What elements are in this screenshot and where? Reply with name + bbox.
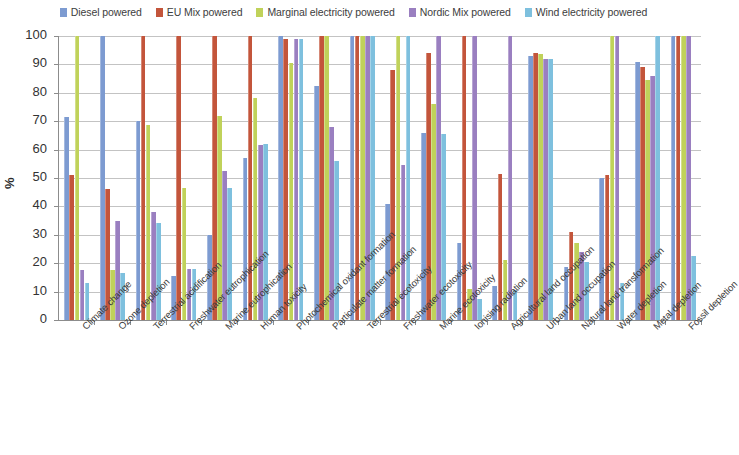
bar xyxy=(360,36,365,320)
bar xyxy=(227,188,232,320)
bar xyxy=(676,36,681,320)
legend-label: Diesel powered xyxy=(71,6,142,18)
legend-swatch-icon xyxy=(60,8,67,17)
bar xyxy=(472,36,477,320)
bar xyxy=(314,86,319,320)
bar xyxy=(299,39,304,320)
y-tick-label: 20 xyxy=(3,254,47,269)
bar xyxy=(681,36,686,320)
y-tick-label: 10 xyxy=(3,283,47,298)
bar xyxy=(390,70,395,320)
bar xyxy=(136,121,141,320)
bar xyxy=(115,221,120,320)
y-tick-label: 100 xyxy=(3,27,47,42)
bar xyxy=(243,158,248,320)
legend-swatch-icon xyxy=(525,8,532,17)
legend-item: EU Mix powered xyxy=(156,6,243,18)
y-tick-label: 40 xyxy=(3,197,47,212)
chart-legend: Diesel poweredEU Mix poweredMarginal ele… xyxy=(0,0,707,24)
chart-area: % 0102030405060708090100 Climate changeO… xyxy=(0,24,707,455)
legend-label: Marginal electricity powered xyxy=(267,6,394,18)
bar xyxy=(645,80,650,320)
y-tick-label: 70 xyxy=(3,112,47,127)
legend-swatch-icon xyxy=(256,8,263,17)
legend-swatch-icon xyxy=(409,8,416,17)
y-tick-label: 60 xyxy=(3,141,47,156)
legend-item: Diesel powered xyxy=(60,6,142,18)
legend-label: EU Mix powered xyxy=(167,6,243,18)
bar xyxy=(80,270,85,320)
bar xyxy=(176,36,181,320)
bar-group xyxy=(665,36,701,320)
legend-item: Nordic Mix powered xyxy=(409,6,511,18)
bar xyxy=(396,36,401,320)
bar xyxy=(141,36,146,320)
y-tick-label: 80 xyxy=(3,84,47,99)
bar xyxy=(319,36,324,320)
bar xyxy=(640,67,645,320)
y-tick-label: 90 xyxy=(3,55,47,70)
bar xyxy=(615,36,620,320)
bar xyxy=(431,104,436,320)
y-tick-label: 50 xyxy=(3,169,47,184)
x-axis-labels: Climate changeOzone depletionTerrestrial… xyxy=(58,324,700,455)
bar xyxy=(69,175,74,320)
y-tick-mark xyxy=(54,320,59,321)
bar xyxy=(156,223,161,320)
bar xyxy=(533,53,538,320)
bar xyxy=(75,36,80,320)
legend-label: Nordic Mix powered xyxy=(420,6,511,18)
bar xyxy=(421,133,426,320)
bar xyxy=(528,56,533,320)
legend-item: Wind electricity powered xyxy=(525,6,647,18)
y-tick-label: 0 xyxy=(3,311,47,326)
bar xyxy=(64,117,69,320)
bar xyxy=(253,98,258,320)
legend-item: Marginal electricity powered xyxy=(256,6,394,18)
bar-group xyxy=(59,36,95,320)
bar xyxy=(655,36,660,320)
bar xyxy=(370,36,375,320)
bar xyxy=(436,36,441,320)
legend-label: Wind electricity powered xyxy=(536,6,647,18)
legend-swatch-icon xyxy=(156,8,163,17)
bar xyxy=(289,63,294,320)
bar xyxy=(671,36,676,320)
bar xyxy=(543,59,548,320)
y-tick-label: 30 xyxy=(3,226,47,241)
bar xyxy=(610,36,615,320)
bar xyxy=(426,53,431,320)
bar xyxy=(686,36,691,320)
bar xyxy=(100,36,105,320)
bar xyxy=(294,39,299,320)
bar xyxy=(538,54,543,320)
bar xyxy=(324,36,329,320)
bar xyxy=(508,36,513,320)
bar xyxy=(365,36,370,320)
